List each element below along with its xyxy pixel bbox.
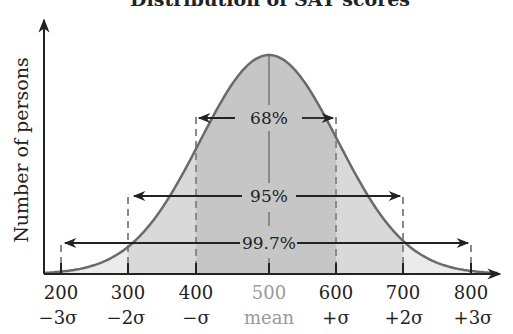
sigma-label-minus-2: −2σ xyxy=(107,307,146,328)
normal-distribution-chart: Distribution of SAT scores Number of xyxy=(0,0,513,334)
tick-label-800: 800 xyxy=(454,282,488,303)
tick-label-200: 200 xyxy=(44,282,78,303)
sigma-label-minus-1: −σ xyxy=(182,307,209,328)
sigma-label-plus-2: +2σ xyxy=(385,307,424,328)
x-tick-labels: 200 300 400 500 600 700 800 −3σ −2σ −σ m… xyxy=(39,282,493,328)
tick-label-700: 700 xyxy=(386,282,420,303)
y-axis-label: Number of persons xyxy=(10,57,32,243)
sigma-label-minus-3: −3σ xyxy=(39,307,78,328)
tick-label-300: 300 xyxy=(111,282,145,303)
tick-label-500: 500 xyxy=(252,282,286,303)
sigma-label-plus-3: +3σ xyxy=(454,307,493,328)
chart-title: Distribution of SAT scores xyxy=(130,0,410,10)
sigma-label-plus-1: +σ xyxy=(322,307,349,328)
annotation-95-label: 95% xyxy=(250,186,288,206)
annotation-68-label: 68% xyxy=(250,108,288,128)
annotation-99-7-label: 99.7% xyxy=(242,233,296,253)
tick-label-600: 600 xyxy=(319,282,353,303)
mean-label: mean xyxy=(244,307,294,328)
tick-label-400: 400 xyxy=(179,282,213,303)
